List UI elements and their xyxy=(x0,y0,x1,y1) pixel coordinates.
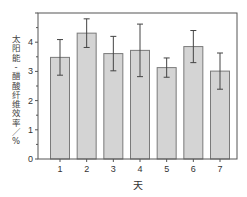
y-axis-ticks: 01234 xyxy=(28,13,38,164)
bar-chart: 01234 1234567 天 太阳能-醋酸纤维效率／% xyxy=(0,0,247,197)
x-tick-label: 5 xyxy=(164,164,169,174)
bar-day-2 xyxy=(77,33,96,159)
y-tick-label: 4 xyxy=(28,37,33,47)
x-tick-label: 1 xyxy=(57,164,62,174)
bar-day-5 xyxy=(157,68,176,159)
x-tick-label: 7 xyxy=(217,164,222,174)
y-axis-title: 太阳能-醋酸纤维效率／% xyxy=(12,34,21,146)
y-tick-label: 0 xyxy=(28,154,33,164)
y-tick-label: 2 xyxy=(28,96,33,106)
bar-day-6 xyxy=(184,47,203,159)
x-axis-ticks: 1234567 xyxy=(57,159,222,174)
y-tick-label: 1 xyxy=(28,125,33,135)
y-tick-label: 3 xyxy=(28,66,33,76)
x-tick-label: 6 xyxy=(191,164,196,174)
y-axis-title-char: % xyxy=(12,136,20,146)
x-axis-title: 天 xyxy=(133,180,143,191)
x-tick-label: 4 xyxy=(137,164,142,174)
x-tick-label: 3 xyxy=(111,164,116,174)
x-tick-label: 2 xyxy=(84,164,89,174)
